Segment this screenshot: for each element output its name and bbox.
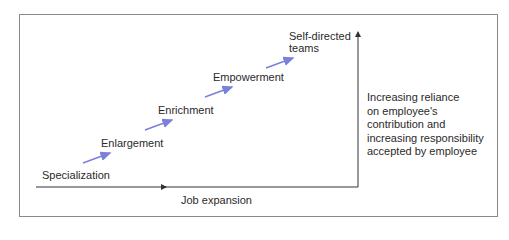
stage-empowerment: Empowerment (213, 71, 284, 84)
arrow-icon (266, 58, 293, 68)
y-axis-description: Increasing reliance on employee's contri… (367, 91, 507, 159)
arrow-icon (145, 120, 172, 130)
y-axis-line: increasing responsibility (367, 132, 507, 146)
x-axis-label: Job expansion (181, 194, 252, 207)
y-axis-line: on employee's (367, 105, 507, 119)
y-axis-line: contribution and (367, 118, 507, 132)
stage-self-directed-line2: teams (289, 42, 319, 55)
arrow-icon (205, 87, 232, 97)
stage-enrichment: Enrichment (158, 104, 214, 117)
y-axis-line: accepted by employee (367, 145, 507, 159)
arrow-icon (83, 153, 110, 163)
y-axis-line: Increasing reliance (367, 91, 507, 105)
stage-enlargement: Enlargement (101, 137, 163, 150)
stage-specialization: Specialization (42, 169, 110, 182)
